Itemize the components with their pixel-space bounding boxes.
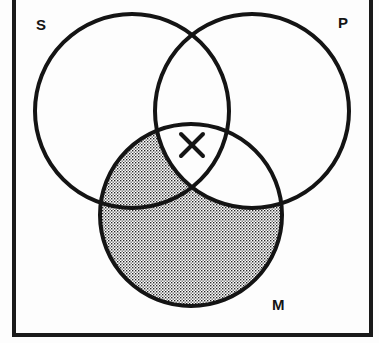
circle-label-p: P bbox=[338, 15, 348, 30]
venn-diagram-canvas bbox=[0, 0, 379, 343]
circle-label-s: S bbox=[36, 17, 46, 32]
venn-diagram-figure: S P M bbox=[0, 0, 379, 343]
circle-label-m: M bbox=[272, 297, 285, 312]
